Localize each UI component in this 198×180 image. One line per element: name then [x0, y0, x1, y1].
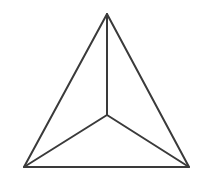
tetrahedron-figure: Line drawing of a tetrahedron (triangula…	[0, 0, 198, 180]
